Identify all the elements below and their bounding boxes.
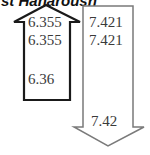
up-arrow-value-1: 6.355 (28, 15, 62, 30)
arrows-graphic (0, 0, 150, 155)
up-arrow-value-2: 6.355 (28, 33, 62, 48)
down-arrow-value-2: 7.421 (89, 33, 123, 48)
down-arrow-value-1: 7.421 (89, 15, 123, 30)
down-arrow-value-3: 7.42 (91, 114, 117, 129)
up-arrow-value-3: 6.36 (28, 72, 54, 87)
